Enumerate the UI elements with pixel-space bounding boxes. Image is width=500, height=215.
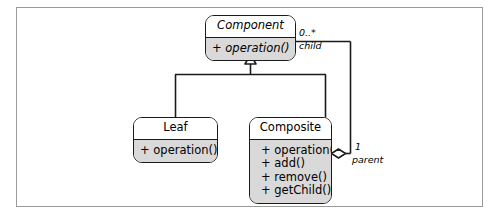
multiplicity-label-child: 0..* bbox=[299, 28, 316, 38]
operation-item: + operation() bbox=[261, 144, 325, 158]
class-box-composite[interactable]: Composite + operation() + add() + remove… bbox=[249, 117, 332, 204]
operation-item: + getChild() bbox=[261, 184, 325, 198]
operation-item: + remove() bbox=[261, 171, 325, 185]
operations-composite: + operation() + add() + remove() + getCh… bbox=[250, 140, 331, 203]
class-box-leaf[interactable]: Leaf + operation() bbox=[133, 117, 218, 163]
operation-item: + operation() bbox=[140, 144, 211, 158]
class-name-leaf: Leaf bbox=[134, 118, 217, 139]
class-name-composite: Composite bbox=[250, 118, 331, 139]
multiplicity-label-parent: 1 bbox=[355, 142, 361, 152]
role-label-child: child bbox=[299, 41, 322, 51]
operation-item: + operation() bbox=[212, 42, 289, 56]
operation-item: + add() bbox=[261, 157, 325, 171]
role-label-parent: parent bbox=[352, 155, 383, 165]
operations-leaf: + operation() bbox=[134, 140, 217, 163]
class-box-component[interactable]: Component + operation() bbox=[205, 15, 296, 61]
class-name-component: Component bbox=[206, 16, 295, 37]
operations-component: + operation() bbox=[206, 38, 295, 61]
diagram-canvas: Component + operation() Leaf + operation… bbox=[0, 0, 500, 215]
